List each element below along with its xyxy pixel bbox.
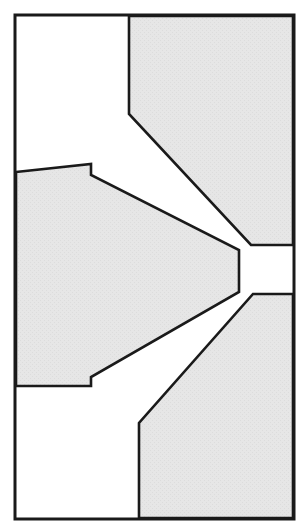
figure-container: Cross-sectional line drawing of a two-pa…: [0, 0, 307, 527]
cross-section-diagram: Cross-sectional line drawing of a two-pa…: [0, 0, 307, 527]
right-frame-mask: [295, 0, 307, 527]
bottom-frame-mask: [0, 520, 307, 527]
left-frame-mask: [0, 0, 15, 527]
top-frame-mask: [0, 0, 307, 15]
